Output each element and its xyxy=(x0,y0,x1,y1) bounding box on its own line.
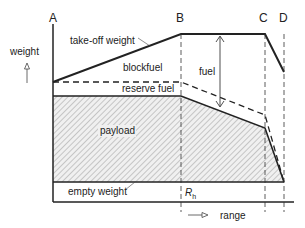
point-d-label: D xyxy=(279,11,288,25)
takeoff-weight-label: take-off weight xyxy=(70,35,135,46)
fuel-label: fuel xyxy=(199,66,215,77)
point-c-label: C xyxy=(259,11,268,25)
x-arrow-head-icon xyxy=(202,213,208,218)
point-a-label: A xyxy=(49,11,57,25)
point-b-label: B xyxy=(176,11,184,25)
payload-label: payload xyxy=(100,125,135,136)
blockfuel-label: blockfuel xyxy=(123,62,162,73)
x-axis-label: range xyxy=(220,210,246,221)
takeoff-leader xyxy=(138,38,150,46)
y-arrow-head-icon xyxy=(25,63,30,69)
range-marker-label: Rh xyxy=(185,187,196,200)
payload-range-diagram: A B C D weight take-off weight blockfuel… xyxy=(0,0,305,228)
empty-weight-label: empty weight xyxy=(68,186,127,197)
reserve-fuel-label: reserve fuel xyxy=(122,83,174,94)
y-axis-label: weight xyxy=(9,46,39,57)
